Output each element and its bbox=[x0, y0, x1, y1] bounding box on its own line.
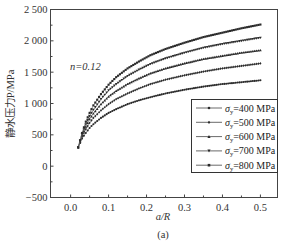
x-tick-label: 0.3 bbox=[178, 202, 191, 213]
chart-canvas: −50005001 0001 5002 0002 500 0.00.10.20.… bbox=[0, 0, 284, 246]
y-tick-label: 2 500 bbox=[24, 4, 48, 15]
y-tick-label: 1 500 bbox=[24, 67, 48, 78]
y-tick-label: 2 000 bbox=[24, 35, 48, 46]
x-tick-label: 0.5 bbox=[254, 202, 267, 213]
legend-label: σy=600 MPa bbox=[225, 131, 276, 143]
x-tick-label: 0.4 bbox=[216, 202, 230, 213]
y-tick-label: 0 bbox=[42, 161, 47, 172]
x-tick-label: 0.2 bbox=[140, 202, 153, 213]
y-tick-label: 1 000 bbox=[24, 98, 48, 109]
y-axis: −50005001 0001 5002 0002 500 bbox=[24, 4, 54, 203]
legend-label: σy=800 MPa bbox=[225, 160, 276, 172]
legend-label: σy=500 MPa bbox=[225, 117, 276, 129]
legend-label: σy=400 MPa bbox=[225, 103, 276, 115]
x-tick-label: 0.0 bbox=[64, 202, 77, 213]
y-tick-label: 500 bbox=[32, 129, 48, 140]
annotation-n: n=0.12 bbox=[70, 61, 101, 72]
y-axis-label: 静水压力P/MPa bbox=[4, 69, 16, 138]
x-axis-label: a/R bbox=[156, 211, 171, 222]
legend-label: σy=700 MPa bbox=[225, 145, 276, 157]
x-tick-label: 0.1 bbox=[102, 202, 115, 213]
legend: σy=400 MPaσy=500 MPaσy=600 MPaσy=700 MPa… bbox=[192, 100, 278, 173]
figure-caption: (a) bbox=[157, 229, 169, 241]
y-tick-label: −500 bbox=[26, 192, 48, 203]
